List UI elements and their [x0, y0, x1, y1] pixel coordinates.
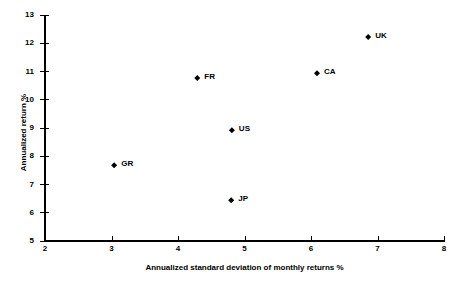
x-tick-mark — [178, 236, 179, 241]
y-tick-label: 5 — [12, 237, 34, 245]
diamond-marker-icon — [111, 162, 117, 168]
plot-area: 5678910111213 2345678 GRFRJPUSCAUK Annua… — [0, 0, 458, 285]
x-axis-title: Annualized standard deviation of monthly… — [44, 263, 445, 272]
x-tick-label: 6 — [301, 245, 321, 253]
diamond-marker-icon — [194, 75, 200, 81]
data-point-label: US — [239, 125, 250, 133]
diamond-marker-icon — [365, 34, 371, 40]
data-point-label: FR — [204, 73, 215, 81]
y-tick-mark — [40, 156, 49, 157]
y-tick-mark — [40, 71, 49, 72]
scatter-chart-figure: 5678910111213 2345678 GRFRJPUSCAUK Annua… — [0, 0, 458, 285]
y-tick-mark — [40, 184, 49, 185]
x-tick-label: 3 — [102, 245, 122, 253]
x-tick-label: 4 — [168, 245, 188, 253]
x-tick-mark — [45, 236, 46, 241]
y-tick-mark — [40, 15, 49, 16]
x-tick-mark — [378, 236, 379, 241]
x-tick-mark — [444, 236, 445, 241]
data-point-label: JP — [238, 195, 248, 203]
data-point-label: UK — [375, 32, 387, 40]
diamond-marker-icon — [314, 70, 320, 76]
y-tick-mark — [40, 128, 49, 129]
y-tick-label: 12 — [12, 39, 34, 47]
y-axis-title: Annualized return % — [19, 63, 28, 203]
x-tick-mark — [245, 236, 246, 241]
diamond-marker-icon — [228, 197, 234, 203]
y-tick-label: 6 — [12, 209, 34, 217]
x-tick-mark — [112, 236, 113, 241]
y-axis-line — [44, 15, 46, 242]
y-tick-label: 13 — [12, 11, 34, 19]
y-tick-mark — [40, 43, 49, 44]
x-tick-label: 2 — [35, 245, 55, 253]
x-tick-label: 8 — [434, 245, 454, 253]
diamond-marker-icon — [229, 127, 235, 133]
x-tick-mark — [311, 236, 312, 241]
y-tick-mark — [40, 212, 49, 213]
data-point-label: GR — [121, 160, 133, 168]
x-tick-label: 7 — [368, 245, 388, 253]
x-tick-label: 5 — [235, 245, 255, 253]
y-tick-mark — [40, 99, 49, 100]
data-point-label: CA — [324, 68, 336, 76]
